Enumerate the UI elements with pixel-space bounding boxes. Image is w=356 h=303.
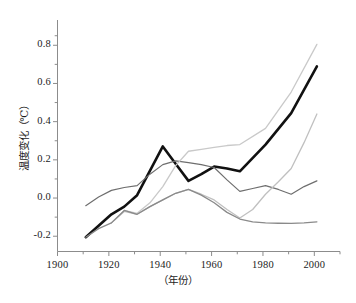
y-axis-title: 温度变化（℃）	[16, 61, 31, 211]
x-tick-label: 2000	[289, 259, 339, 270]
x-tick-label: 1900	[33, 259, 83, 270]
x-tick-label: 1960	[187, 259, 237, 270]
data-series	[86, 44, 317, 237]
series-line-baseline-mid-gray-low	[86, 189, 317, 237]
series-line-model-mid-gray-upper	[86, 161, 317, 206]
y-tick-label: -0.2	[0, 229, 51, 240]
temperature-change-chart: 0.80.60.40.20.0-0.2 19001920194019601980…	[0, 0, 356, 303]
series-line-observed-bold-black	[86, 66, 317, 237]
x-axis-title: （年份）	[0, 272, 356, 287]
series-line-scenario-light-gray-mid	[111, 114, 316, 223]
y-tick-label: 0.8	[0, 38, 51, 49]
axis-lines	[58, 20, 341, 252]
series-line-scenario-light-gray-high	[111, 44, 316, 223]
x-tick-label: 1940	[135, 259, 185, 270]
x-tick-label: 1980	[238, 259, 288, 270]
x-tick-label: 1920	[84, 259, 134, 270]
